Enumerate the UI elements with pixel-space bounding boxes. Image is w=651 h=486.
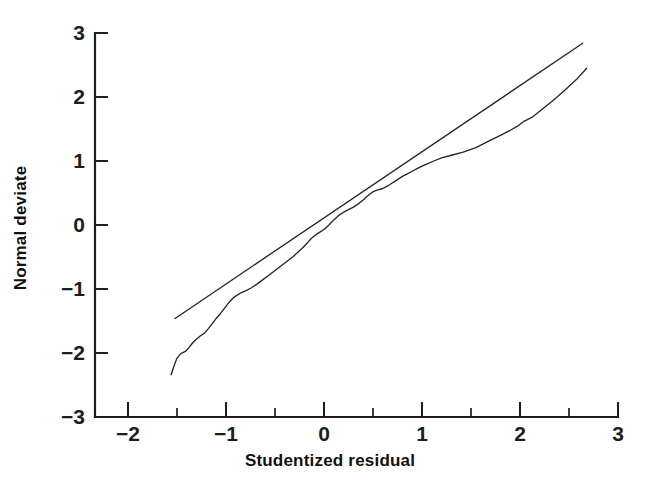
x-axis-title: Studentized residual — [245, 451, 415, 470]
y-axis-tick-label: 2 — [73, 85, 85, 108]
y-axis-tick-label: −1 — [61, 277, 85, 300]
x-axis-tick-label: 2 — [514, 422, 526, 445]
labels-layer: −3−2−10123−2−10123 — [61, 21, 624, 446]
y-axis-tick-label: 0 — [73, 213, 85, 236]
x-axis-tick-label: 0 — [318, 422, 330, 445]
x-axis-tick-label: −2 — [116, 422, 140, 445]
figure-container: −3−2−10123−2−10123 Studentized residual … — [0, 0, 651, 486]
y-axis-tick-label: 3 — [73, 21, 85, 44]
axes-layer — [95, 33, 618, 417]
normal-probability-curve — [171, 68, 587, 375]
y-axis-tick-label: −3 — [61, 405, 85, 428]
y-axis-title: Normal deviate — [11, 166, 30, 291]
reference-line — [175, 43, 583, 318]
x-axis-tick-label: −1 — [214, 422, 238, 445]
normal-probability-plot: −3−2−10123−2−10123 Studentized residual … — [0, 0, 651, 486]
ticks-layer — [95, 33, 618, 417]
x-axis-tick-label: 1 — [416, 422, 428, 445]
y-axis-tick-label: 1 — [73, 149, 85, 172]
y-axis-tick-label: −2 — [61, 341, 85, 364]
x-axis-tick-label: 3 — [612, 422, 624, 445]
series-layer — [171, 43, 587, 375]
